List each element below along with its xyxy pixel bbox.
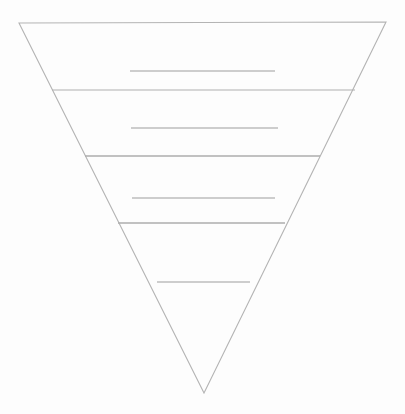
page-background [0, 0, 405, 414]
inverted-pyramid-diagram [0, 0, 405, 414]
diagram-canvas [0, 0, 405, 414]
